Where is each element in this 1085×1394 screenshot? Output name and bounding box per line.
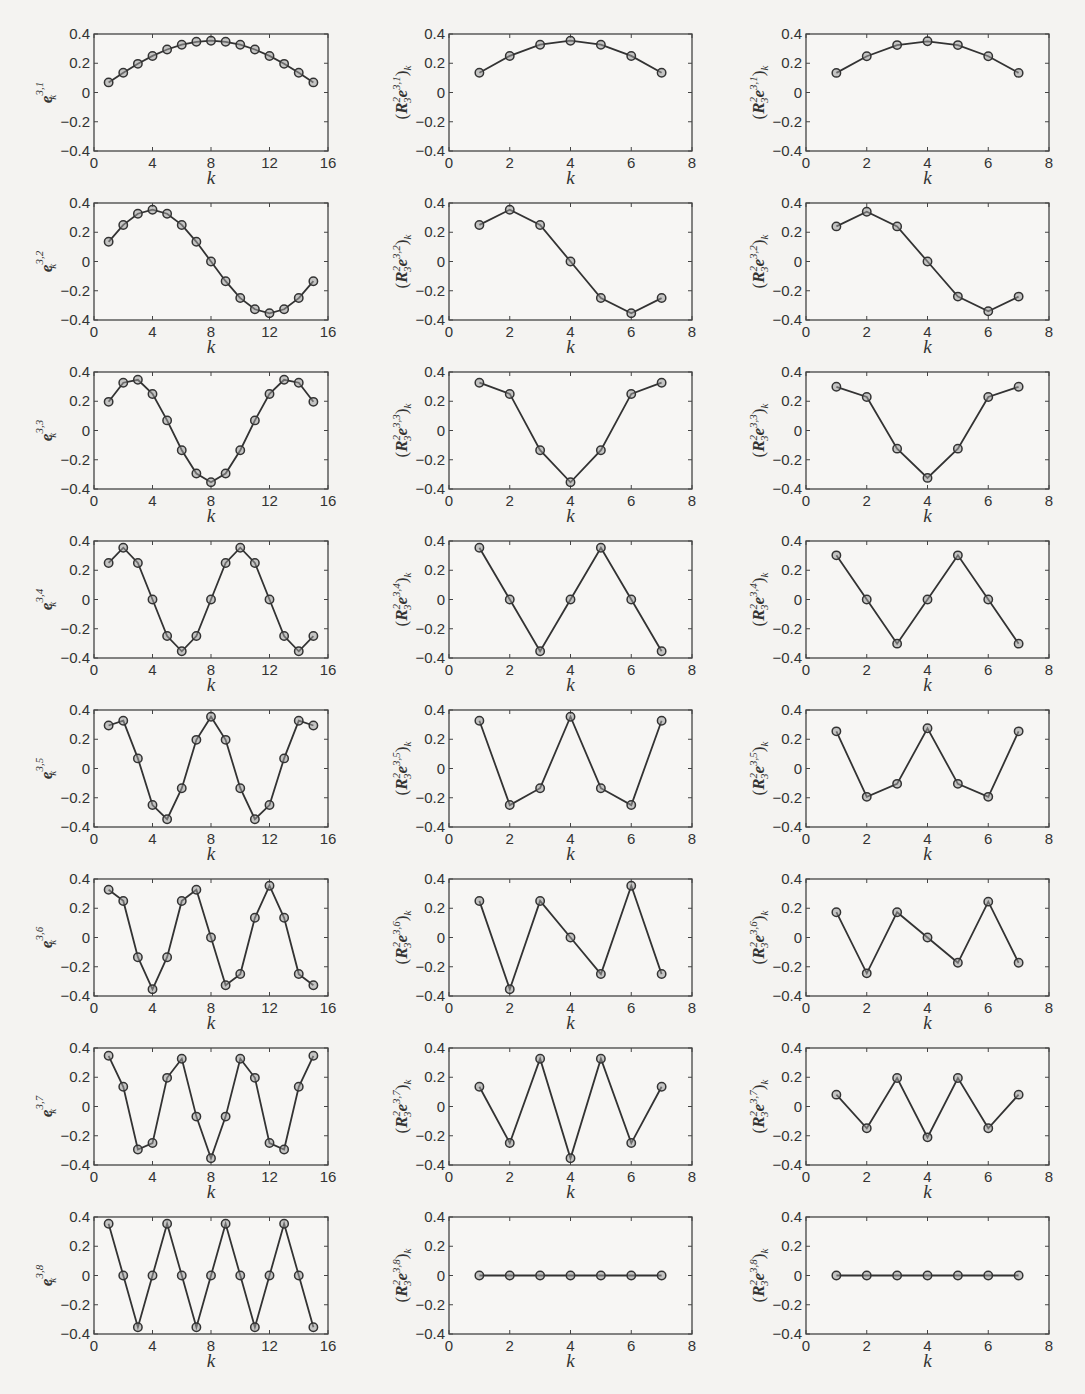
y-tick-label: −0.2 <box>60 1127 90 1144</box>
axes-frame <box>806 34 1049 151</box>
x-tick-label: 0 <box>445 999 453 1016</box>
data-point-marker <box>832 551 840 559</box>
y-tick-label: −0.4 <box>772 987 802 1004</box>
data-point-marker <box>295 378 303 386</box>
y-tick-label: −0.2 <box>60 620 90 637</box>
y-axis-label: e3,4k <box>33 588 58 610</box>
y-tick-label: 0.4 <box>424 532 445 549</box>
data-point-marker <box>566 1271 574 1279</box>
x-tick-label: 8 <box>688 1337 696 1354</box>
x-tick-label: 2 <box>863 1168 871 1185</box>
data-point-marker <box>506 985 514 993</box>
axes-frame <box>806 1048 1049 1165</box>
y-tick-label: 0.4 <box>69 701 90 718</box>
data-point-marker <box>148 595 156 603</box>
data-point-marker <box>207 1271 215 1279</box>
data-point-marker <box>163 209 171 217</box>
x-axis-label: k <box>566 1012 575 1033</box>
x-tick-label: 8 <box>688 154 696 171</box>
data-point-marker <box>984 307 992 315</box>
data-point-marker <box>536 446 544 454</box>
y-tick-label: 0 <box>437 1267 445 1284</box>
data-point-marker <box>221 1220 229 1228</box>
data-point-marker <box>280 754 288 762</box>
data-point-marker <box>192 1323 200 1331</box>
x-axis-label: k <box>566 336 575 357</box>
y-tick-label: 0.4 <box>781 870 802 887</box>
data-point-marker <box>954 1074 962 1082</box>
data-point-marker <box>984 1271 992 1279</box>
x-tick-label: 0 <box>802 323 810 340</box>
data-point-marker <box>265 1139 273 1147</box>
data-point-marker <box>475 1271 483 1279</box>
y-tick-label: 0.2 <box>781 730 802 747</box>
data-point-marker <box>627 882 635 890</box>
x-tick-label: 4 <box>148 323 156 340</box>
data-point-marker <box>148 1271 156 1279</box>
data-point-marker <box>475 69 483 77</box>
y-tick-label: −0.4 <box>772 1325 802 1342</box>
x-tick-label: 0 <box>445 661 453 678</box>
x-tick-label: 0 <box>90 1337 98 1354</box>
x-tick-label: 2 <box>506 1168 514 1185</box>
data-point-marker <box>221 277 229 285</box>
data-point-marker <box>893 1271 901 1279</box>
y-tick-label: 0.4 <box>424 701 445 718</box>
data-point-marker <box>1014 292 1022 300</box>
data-point-marker <box>178 784 186 792</box>
data-point-marker <box>566 37 574 45</box>
data-point-marker <box>119 221 127 229</box>
data-point-marker <box>148 801 156 809</box>
data-point-marker <box>221 559 229 567</box>
data-point-marker <box>627 595 635 603</box>
y-tick-label: 0.4 <box>69 363 90 380</box>
data-point-marker <box>893 41 901 49</box>
data-point-marker <box>1014 959 1022 967</box>
y-tick-label: 0 <box>437 253 445 270</box>
data-point-marker <box>192 469 200 477</box>
data-point-marker <box>597 784 605 792</box>
y-tick-label: −0.4 <box>60 1156 90 1173</box>
data-point-marker <box>280 914 288 922</box>
panel-restriction-injection-1: 0.40.20−0.2−0.402468k(R23e3,1)k <box>390 25 696 188</box>
panel-restriction-injection-4: 0.40.20−0.2−0.402468k(R23e3,4)k <box>390 532 696 695</box>
data-point-marker <box>119 544 127 552</box>
x-tick-label: 16 <box>320 1337 337 1354</box>
data-point-marker <box>295 716 303 724</box>
x-tick-label: 8 <box>1045 323 1053 340</box>
data-point-marker <box>251 815 259 823</box>
y-tick-label: −0.2 <box>60 1296 90 1313</box>
panel-restriction-full-weighting-7: 0.40.20−0.2−0.402468k(R23e3,7)k <box>747 1039 1053 1202</box>
x-tick-label: 6 <box>984 830 992 847</box>
y-axis-label: (R23e3,3)k <box>747 402 770 457</box>
data-point-marker <box>265 595 273 603</box>
data-point-marker <box>192 238 200 246</box>
data-point-marker <box>236 970 244 978</box>
y-tick-label: −0.4 <box>415 1156 445 1173</box>
data-point-marker <box>475 1083 483 1091</box>
y-tick-label: −0.4 <box>415 480 445 497</box>
data-point-marker <box>295 294 303 302</box>
data-point-marker <box>251 1074 259 1082</box>
data-point-marker <box>119 1083 127 1091</box>
x-axis-label: k <box>923 336 932 357</box>
x-tick-label: 0 <box>802 661 810 678</box>
y-tick-label: 0.2 <box>781 223 802 240</box>
y-tick-label: 0.2 <box>424 899 445 916</box>
x-tick-label: 8 <box>1045 1337 1053 1354</box>
y-tick-label: 0.2 <box>781 1237 802 1254</box>
y-tick-label: 0 <box>794 1098 802 1115</box>
x-tick-label: 4 <box>148 661 156 678</box>
data-point-marker <box>657 716 665 724</box>
x-tick-label: 6 <box>627 323 635 340</box>
data-point-marker <box>1014 1090 1022 1098</box>
data-point-marker <box>627 1271 635 1279</box>
y-tick-label: −0.2 <box>415 282 445 299</box>
x-tick-label: 12 <box>261 999 278 1016</box>
y-tick-label: 0 <box>794 760 802 777</box>
data-point-marker <box>192 736 200 744</box>
y-tick-label: 0.4 <box>781 1039 802 1056</box>
data-point-marker <box>536 647 544 655</box>
y-tick-label: 0.4 <box>424 363 445 380</box>
panel-restriction-full-weighting-6: 0.40.20−0.2−0.402468k(R23e3,6)k <box>747 870 1053 1033</box>
